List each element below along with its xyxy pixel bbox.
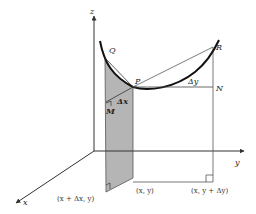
point-q-label: Q	[109, 46, 116, 55]
point-r-label: R	[215, 43, 222, 52]
delta-x-label: Δx	[116, 96, 128, 106]
delta-y-label: Δy	[187, 77, 199, 86]
point-p-label: P	[134, 77, 141, 86]
coord-x-y-dy: (x, y + Δy)	[191, 187, 228, 195]
right-angle-marker-xy-dy	[206, 175, 213, 182]
x-axis-label: x	[23, 198, 28, 207]
point-m-label: M	[105, 106, 116, 116]
coord-x-y: (x, y)	[136, 187, 154, 195]
z-axis-label: z	[89, 7, 95, 16]
coord-x-dx-y: (x + Δx, y)	[57, 195, 94, 203]
diagram-canvas: z y x Q P R N M Δx Δy (x + Δx, y) (x, y)…	[0, 0, 256, 214]
y-axis-label: y	[234, 158, 240, 167]
point-n-label: N	[215, 84, 224, 93]
